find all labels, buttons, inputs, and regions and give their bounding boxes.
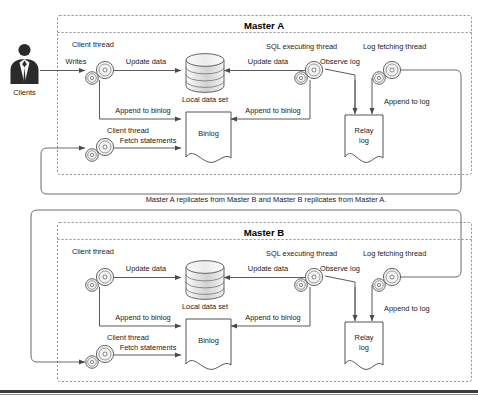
replication-diagram: Master A Clients Client thread SQL execu… <box>0 0 478 398</box>
master-a-append-binlog-right-label: Append to binlog <box>245 106 300 115</box>
master-b-observe-log-line <box>325 276 355 319</box>
master-b-binlog: Binlog <box>186 319 231 369</box>
master-a-sql-executing-thread-label: SQL executing thread <box>266 42 337 51</box>
master-a-binlog: Binlog <box>186 112 231 162</box>
master-a-log-fetching-thread-icon <box>373 61 401 84</box>
bottom-divider-bar <box>0 390 478 393</box>
master-a-client-thread-top-label: Client thread <box>72 40 114 49</box>
master-a-sql-executing-thread-icon <box>295 61 323 84</box>
master-a-local-data-set: Local data set <box>182 54 228 104</box>
master-a-relay-log: Relay log <box>345 115 383 162</box>
master-b-update-data-right-label: Update data <box>248 264 289 273</box>
master-a-local-data-set-label: Local data set <box>182 95 228 104</box>
master-a-binlog-label: Binlog <box>198 129 219 138</box>
cross-replication-note: Master A replicates from Master B and Ma… <box>41 70 461 204</box>
master-a-update-data-right-label: Update data <box>248 57 289 66</box>
master-a-append-binlog-left-label: Append to binlog <box>115 106 170 115</box>
master-b-fetch-statements-label: Fetch statements <box>120 343 177 352</box>
master-b-append-binlog-left-label: Append to binlog <box>115 313 170 322</box>
master-b-update-data-left-label: Update data <box>126 264 167 273</box>
master-a-client-thread-bottom-icon <box>86 138 114 161</box>
master-b-append-to-log-label: Append to log <box>384 304 430 313</box>
master-a-log-fetching-thread-label: Log fetching thread <box>363 42 426 51</box>
clients-label: Clients <box>13 88 36 97</box>
master-a-writes-label: Writes <box>66 57 87 66</box>
clients-actor: Clients <box>11 44 39 97</box>
master-b-client-thread-bottom-icon <box>86 345 114 368</box>
master-b-local-data-set-label: Local data set <box>182 302 228 311</box>
master-b-append-binlog-right-label: Append to binlog <box>245 313 300 322</box>
master-b-sql-executing-thread-icon <box>295 268 323 291</box>
master-b-container: Master B <box>58 223 472 382</box>
master-b-client-thread-top-label: Client thread <box>72 247 114 256</box>
master-a-container: Master A <box>58 16 472 175</box>
master-b-relay-log-label-1: Relay <box>355 333 374 342</box>
master-a-observe-log-line <box>325 69 355 112</box>
master-a-client-thread-bottom-label: Client thread <box>107 126 149 135</box>
diagram-canvas: Master A Clients Client thread SQL execu… <box>0 0 478 398</box>
master-b-log-fetching-thread-icon <box>373 268 401 291</box>
master-b-observe-log-label: Observe log <box>320 264 360 273</box>
master-b-relay-log: Relay log <box>345 322 383 369</box>
master-a-relay-log-label-1: Relay <box>355 126 374 135</box>
master-a-title: Master A <box>244 20 284 31</box>
cross-replication-note-label: Master A replicates from Master B and Ma… <box>146 195 387 204</box>
master-b-relay-log-label-2: log <box>359 343 369 352</box>
person-silhouette-icon <box>11 44 39 84</box>
master-a-observe-log-label: Observe log <box>320 57 360 66</box>
master-a-fetch-statements-label: Fetch statements <box>120 136 177 145</box>
master-a-update-data-left-label: Update data <box>126 57 167 66</box>
master-b-client-thread-bottom-label: Client thread <box>107 333 149 342</box>
master-b-binlog-label: Binlog <box>198 336 219 345</box>
master-b-sql-executing-thread-label: SQL executing thread <box>266 249 337 258</box>
master-b-local-data-set: Local data set <box>182 261 228 311</box>
master-b-title: Master B <box>244 227 285 238</box>
bottom-divider-shadow <box>0 394 478 395</box>
master-a-append-to-log-label: Append to log <box>384 97 430 106</box>
master-a-relay-log-label-2: log <box>359 136 369 145</box>
master-b-log-fetching-thread-label: Log fetching thread <box>363 249 426 258</box>
